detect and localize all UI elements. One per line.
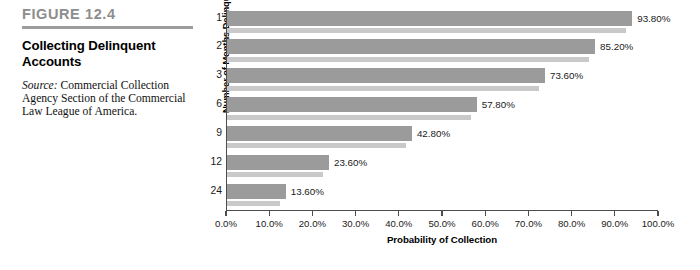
x-axis-tick-label: 90.0%: [601, 218, 628, 229]
bar: [227, 39, 595, 54]
y-axis-tick-labels: 123691224: [196, 8, 222, 210]
x-axis-tick: [225, 211, 226, 216]
y-axis-tick-label: 2: [216, 40, 222, 51]
x-axis-tick-label: 0.0%: [215, 218, 237, 229]
bar-value-label: 42.80%: [417, 128, 450, 139]
bar-shadow: [227, 57, 589, 62]
y-axis-tick-label: 24: [210, 185, 222, 196]
x-axis-tick-label: 40.0%: [385, 218, 412, 229]
bar: [227, 126, 412, 141]
x-axis-tick-label: 100.0%: [642, 218, 675, 229]
x-axis-tick-label: 50.0%: [428, 218, 455, 229]
plot-area: Probability of Collection 0.0%10.0%20.0%…: [226, 8, 658, 210]
x-axis-tick: [528, 211, 529, 216]
bar-value-label: 85.20%: [600, 41, 633, 52]
y-axis-tick-label: 12: [210, 156, 222, 167]
y-axis-tick-label: 6: [216, 98, 222, 109]
figure-number: FIGURE 12.4: [22, 6, 194, 26]
x-axis-tick-label: 10.0%: [256, 218, 283, 229]
bar-value-label: 23.60%: [334, 157, 367, 168]
figure-caption-block: FIGURE 12.4 Collecting Delinquent Accoun…: [22, 6, 194, 119]
x-axis-tick: [614, 211, 615, 216]
bar-group: [227, 184, 286, 207]
bar-value-label: 93.80%: [637, 13, 670, 24]
y-axis-tick-label: 9: [216, 127, 222, 138]
bar-group: [227, 126, 412, 149]
bar-value-label: 13.60%: [291, 186, 324, 197]
bar-group: [227, 97, 477, 120]
bar: [227, 155, 329, 170]
bar: [227, 184, 286, 199]
bar: [227, 68, 545, 83]
bar-shadow: [227, 28, 626, 33]
x-axis-tick: [657, 211, 658, 216]
bar-group: [227, 155, 329, 178]
x-axis-tick: [398, 211, 399, 216]
bar: [227, 11, 632, 26]
x-axis-title: Probability of Collection: [226, 234, 658, 245]
figure-source-note: Source: Commercial Collection Agency Sec…: [22, 80, 194, 119]
bar-shadow: [227, 115, 471, 120]
bar-chart: Number of Months Delinquent 123691224 Pr…: [196, 0, 700, 270]
y-axis-tick-label: 1: [216, 12, 222, 23]
bar-shadow: [227, 86, 539, 91]
x-axis-tick: [571, 211, 572, 216]
x-axis-tick-label: 70.0%: [515, 218, 542, 229]
x-axis-tick-label: 20.0%: [299, 218, 326, 229]
x-axis-tick: [355, 211, 356, 216]
bar-group: [227, 68, 545, 91]
figure-rule-divider: [22, 26, 193, 29]
y-axis-tick-label: 3: [216, 69, 222, 80]
bar-group: [227, 39, 595, 62]
bar-value-label: 57.80%: [482, 99, 515, 110]
source-label: Source:: [22, 79, 58, 92]
x-axis-tick-label: 30.0%: [342, 218, 369, 229]
bar: [227, 97, 477, 112]
bar-shadow: [227, 201, 280, 206]
bar-group: [227, 11, 632, 34]
x-axis-tick: [269, 211, 270, 216]
bar-shadow: [227, 143, 406, 148]
x-axis-tick: [485, 211, 486, 216]
x-axis-tick: [441, 211, 442, 216]
figure-title: Collecting Delinquent Accounts: [22, 38, 194, 69]
x-axis-tick-label: 60.0%: [472, 218, 499, 229]
x-axis-tick-label: 80.0%: [558, 218, 585, 229]
bar-value-label: 73.60%: [550, 70, 583, 81]
x-axis-tick: [312, 211, 313, 216]
bar-shadow: [227, 172, 323, 177]
